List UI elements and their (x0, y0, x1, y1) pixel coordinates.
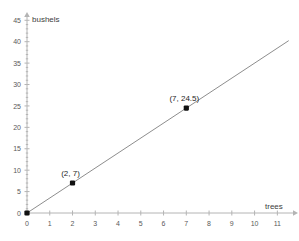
y-tick-label: 25 (13, 103, 21, 110)
data-point-label: (2, 7) (61, 169, 80, 178)
x-tick-label: 4 (116, 220, 120, 227)
x-tick-label: 1 (48, 220, 52, 227)
y-tick-label: 15 (13, 145, 21, 152)
coordinate-plane-chart: 01234567891011 051015202530354045 (2, 7)… (0, 0, 299, 241)
chart-container: 01234567891011 051015202530354045 (2, 7)… (0, 0, 299, 241)
y-tick-label: 0 (17, 210, 21, 217)
x-tick-label: 5 (139, 220, 143, 227)
y-axis-label: bushels (32, 15, 60, 24)
x-tick-label: 2 (71, 220, 75, 227)
y-tick-label: 45 (13, 17, 21, 24)
y-tick-label: 20 (13, 124, 21, 131)
y-tick-label: 10 (13, 167, 21, 174)
x-tick-label: 0 (25, 220, 29, 227)
data-point-label: (7, 24.5) (169, 94, 199, 103)
y-tick-label: 35 (13, 60, 21, 67)
x-tick-label: 11 (274, 220, 281, 227)
axes-group (24, 12, 298, 216)
data-point-marker (70, 180, 75, 185)
trend-line (27, 41, 289, 213)
y-tick-label: 5 (17, 188, 21, 195)
x-tick-label: 7 (184, 220, 188, 227)
data-point-labels: (2, 7)(7, 24.5) (61, 94, 199, 178)
y-tick-label: 30 (13, 81, 21, 88)
x-axis-arrow-icon (293, 210, 298, 216)
x-axis-label: trees (265, 202, 283, 211)
x-tick-label: 10 (251, 220, 259, 227)
x-tick-label: 9 (230, 220, 234, 227)
data-point-marker (24, 210, 29, 215)
x-tick-label: 8 (207, 220, 211, 227)
data-point-marker (184, 105, 189, 110)
x-tick-label: 3 (93, 220, 97, 227)
x-tick-label: 6 (162, 220, 166, 227)
data-line-series (27, 41, 289, 213)
y-tick-label: 40 (13, 38, 21, 45)
